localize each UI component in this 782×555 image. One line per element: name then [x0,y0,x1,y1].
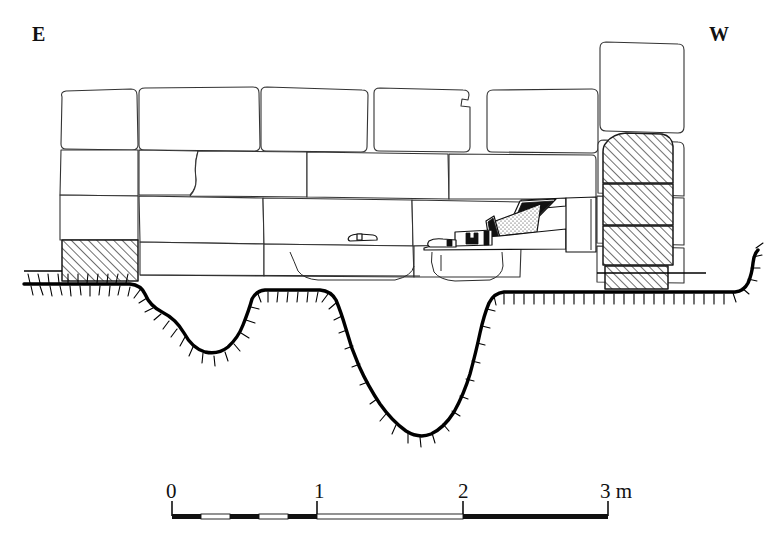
ashlar-block [487,89,598,153]
orientation-label-east: E [32,24,45,44]
course-1-top [61,42,684,153]
ashlar-block [190,151,307,197]
scale-segment [317,514,463,519]
small-stone-dark [447,240,452,246]
scale-segment [259,514,288,519]
section-drawing-canvas [0,0,782,555]
scale-segment [201,514,230,519]
scale-label-3: 3 m [600,481,632,502]
orientation-label-west: W [709,24,729,44]
hatched-block-right-1 [603,133,673,183]
ashlar-block [60,195,138,240]
ashlar-block [61,89,138,150]
hatched-block-right-3 [603,226,673,265]
ashlar-block [263,198,413,246]
section-drawing-figure: E W 0 1 2 3 m [0,0,782,555]
small-stone [348,234,377,241]
ashlar-block [307,152,449,199]
scale-segment [463,514,608,519]
scale-label-0: 0 [166,481,177,502]
ashlar-block [139,87,260,151]
course-3 [60,195,521,246]
hatched-block-left [62,240,138,281]
ashlar-block [261,87,368,152]
ashlar-block [264,244,414,277]
scale-label-1: 1 [314,481,325,502]
scale-label-2: 2 [458,481,469,502]
small-stone-dark [484,231,489,245]
small-stone [357,234,362,240]
hatched-block-right-2 [603,184,673,225]
ashlar-block [139,150,198,195]
ashlar-block [60,150,138,196]
ashlar-block [139,196,264,244]
scale-segment [230,514,259,519]
ashlar-block [140,242,264,276]
hatched-block-right-4 [605,266,668,289]
scale-segment [172,514,201,519]
ashlar-block [374,88,470,152]
scale-bar [172,501,608,519]
ashlar-block [600,42,684,133]
scale-segment [288,514,317,519]
ashlar-block [449,154,596,199]
